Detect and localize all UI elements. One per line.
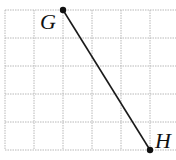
- point-g: [60, 7, 66, 13]
- point-h: [147, 147, 153, 153]
- grid-diagram: G H: [0, 0, 176, 160]
- segment-gh: [63, 10, 150, 150]
- grid: [5, 10, 176, 150]
- label-h: H: [154, 128, 172, 153]
- label-g: G: [40, 9, 56, 34]
